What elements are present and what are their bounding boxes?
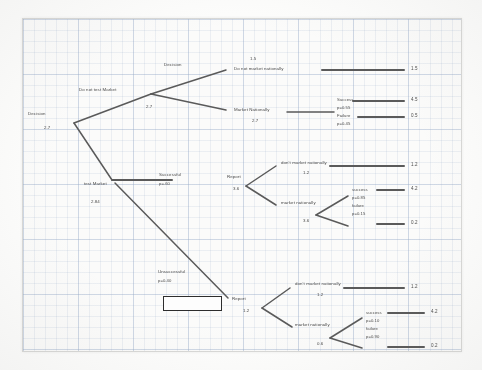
option-value-market-nationally: 2.7 [252, 118, 258, 124]
outcome-label-failure-mid: failure [352, 203, 364, 208]
report-value-successful: 3.6 [233, 186, 239, 192]
payoff-failure-05: 0.5 [411, 113, 418, 119]
outcome-label-success-upper: Success [337, 97, 353, 102]
outcome-label-failure-upper: Failure [337, 113, 350, 118]
outcome-prob-success-upper: p=0.55 [337, 105, 350, 110]
branch-label-test-market: test Market [84, 181, 107, 187]
option-label-dont-market-upper: don't market nationally [281, 160, 327, 166]
payoff-success-45: 4.5 [411, 97, 418, 103]
option-value-market-lower: 0.6 [317, 341, 323, 347]
outcome-prob-failure-low: p=0.90 [366, 334, 379, 339]
result-label-unsuccessful: Unsuccessful [158, 269, 185, 275]
outcome-prob-success-mid: p=0.85 [352, 195, 365, 200]
option-label-market-lower: market nationally [295, 322, 330, 328]
payoff-failure-02-upper: 0.2 [411, 220, 418, 226]
option-value-do-not-market-nationally: 1.5 [250, 56, 256, 62]
report-value-unsuccessful: 1.2 [243, 308, 249, 314]
branch-label-do-not-test-market: Do not test Market [79, 87, 116, 93]
outcome-prob-success-low: p=0.10 [366, 318, 379, 323]
result-label-successful: Successful [159, 172, 181, 178]
root-decision-label: Decision [28, 111, 46, 117]
payoff-success-42-upper: 4.2 [411, 186, 418, 192]
option-label-do-not-market-nationally: Do not market nationally [234, 66, 283, 72]
empty-annotation-box [163, 296, 222, 311]
report-label-successful: Report [227, 174, 241, 180]
payoff-do-not-market-nationally: 1.5 [411, 66, 418, 72]
outcome-prob-failure-mid: p=0.15 [352, 211, 365, 216]
option-value-market-upper: 3.6 [303, 218, 309, 224]
payoff-dont-market-12-upper: 1.2 [411, 162, 418, 168]
root-value: 2.7 [44, 125, 50, 131]
branch-value-test-market: 2.84 [91, 199, 100, 205]
option-label-market-nationally: Market Nationally [234, 107, 269, 113]
outcome-prob-failure-upper: p=0.45 [337, 121, 350, 126]
payoff-failure-02-lower: 0.2 [431, 343, 438, 349]
branch-value-do-not-test-market: 2.7 [146, 104, 152, 110]
option-label-dont-market-lower: don't market nationally [295, 281, 341, 287]
decision-tree-page: Decision 2.7 Do not test Market 2.7 Deci… [0, 0, 482, 370]
report-label-unsuccessful: Report [232, 296, 246, 302]
outcome-label-success-mid: success [352, 187, 368, 192]
decision-node-label-upper: Decision [164, 62, 182, 68]
result-prob-unsuccessful: p=0.40 [158, 278, 171, 283]
option-value-dont-market-lower: 1.2 [317, 292, 323, 298]
option-label-market-upper: market nationally [281, 200, 316, 206]
result-prob-successful: p=.60 [159, 181, 170, 186]
option-value-dont-market-upper: 1.2 [303, 170, 309, 176]
outcome-label-success-low: success [366, 310, 382, 315]
payoff-success-42-lower: 4.2 [431, 309, 438, 315]
outcome-label-failure-low: failure [366, 326, 378, 331]
payoff-dont-market-12-lower: 1.2 [411, 284, 418, 290]
